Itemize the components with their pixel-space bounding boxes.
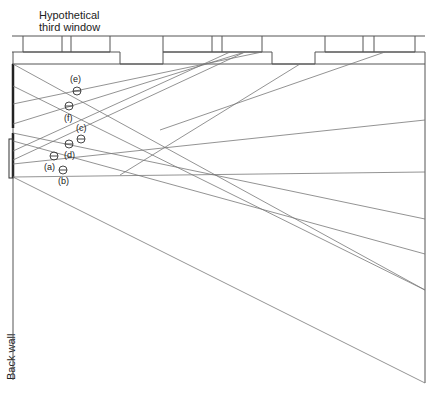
label-e: (e): [70, 74, 81, 84]
label-a: (a): [44, 162, 55, 172]
point-e: [73, 87, 81, 95]
point-f: [65, 102, 73, 110]
point-a: [50, 152, 58, 160]
wall-bars: [9, 64, 13, 178]
label-b: (b): [58, 176, 69, 186]
point-d: [65, 140, 73, 148]
room-plan-diagram: (e) (f) (c) (d) (a) (b): [0, 0, 436, 398]
point-c: [77, 135, 85, 143]
light-rays: [13, 52, 425, 383]
point-b: [59, 166, 67, 174]
label-f: (f): [64, 113, 73, 123]
label-c: (c): [76, 123, 87, 133]
label-d: (d): [64, 150, 75, 160]
